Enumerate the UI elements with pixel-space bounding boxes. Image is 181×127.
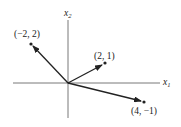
x2-axis-label: x2 xyxy=(63,8,72,19)
label-4-neg1: (4, −1) xyxy=(131,106,157,117)
point-2-1 xyxy=(103,61,106,64)
vector-diagram: x2 x1 (−2, 2) (2, 1) (4, −1) xyxy=(0,0,181,127)
vector-4-neg1 xyxy=(68,83,141,101)
label-neg2-2: (−2, 2) xyxy=(14,29,40,40)
label-2-1: (2, 1) xyxy=(94,51,115,62)
point-neg2-2 xyxy=(29,42,32,45)
x1-axis-label: x1 xyxy=(162,77,170,88)
vector-neg2-2 xyxy=(33,46,68,83)
point-4-neg1 xyxy=(142,100,145,103)
vector-2-1 xyxy=(68,65,102,83)
